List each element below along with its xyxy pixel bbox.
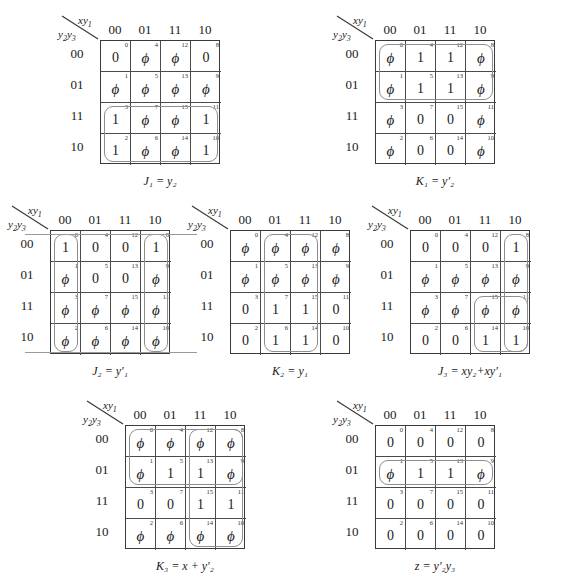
kmap-cell: 20 — [411, 324, 441, 355]
row-header-10-3: 10 — [89, 524, 115, 540]
cell-value: ϕ — [376, 142, 405, 160]
kmap-grid: 0040120801ϕ511319ϕ30701501102060140100 — [375, 425, 495, 549]
cell-value: 0 — [81, 270, 110, 288]
kmap-cell: 50 — [81, 262, 111, 293]
cell-value: 1 — [101, 111, 130, 129]
cell-index: 1 — [75, 262, 78, 270]
cell-value: 1 — [406, 49, 435, 67]
row-header-01-1: 01 — [89, 462, 115, 478]
column-header-11-2: 11 — [185, 407, 215, 423]
cell-index: 3 — [150, 488, 153, 496]
row-header-00-0: 00 — [14, 236, 40, 252]
kmap-grid: 0040120811ϕ5ϕ13ϕ9ϕ3ϕ7ϕ15ϕ11ϕ2060141101 — [410, 230, 530, 354]
kmap-cell: 9ϕ — [501, 262, 531, 293]
column-header-01-1: 01 — [405, 407, 435, 423]
cell-value: 0 — [406, 434, 435, 452]
cell-value: 1 — [191, 142, 221, 160]
cell-index: 5 — [285, 262, 288, 270]
cell-value: 0 — [466, 527, 496, 545]
kmap-cell: 151 — [186, 488, 216, 519]
kmap-cell: 110 — [321, 293, 351, 324]
cell-index: 0 — [435, 231, 438, 239]
cell-index: 15 — [132, 293, 139, 301]
row-header-11-2: 11 — [374, 298, 400, 314]
kmap-cell: 3ϕ — [376, 103, 406, 134]
kmap-cell: 01 — [51, 231, 81, 262]
row-header-01-1: 01 — [64, 77, 90, 93]
kmap-cell: 4ϕ — [156, 426, 186, 457]
cell-index: 14 — [492, 324, 499, 332]
cell-index: 9 — [491, 72, 494, 80]
row-header-00-0: 00 — [374, 236, 400, 252]
kmap-cell: 70 — [406, 488, 436, 519]
cell-index: 0 — [75, 231, 78, 239]
cell-index: 7 — [465, 293, 468, 301]
cell-value: ϕ — [376, 111, 405, 129]
kmap-cell: 150 — [436, 103, 466, 134]
kmap-caption-J1: J₁ = y₂ — [60, 174, 260, 189]
cell-value: ϕ — [101, 80, 130, 98]
top-variable-label: xy1 — [353, 14, 367, 29]
left-variable-label: y2y3 — [188, 218, 206, 233]
cell-index: 10 — [213, 134, 220, 142]
cell-value: 0 — [411, 239, 440, 257]
cell-index: 4 — [430, 41, 433, 49]
cell-value: 1 — [216, 496, 246, 514]
cell-value: ϕ — [126, 527, 155, 545]
kmap-cell: 140 — [436, 519, 466, 550]
cell-index: 7 — [155, 103, 158, 111]
cell-value: ϕ — [111, 301, 140, 319]
kmap-cell: 1ϕ — [231, 262, 261, 293]
kmap-cell: 40 — [441, 231, 471, 262]
kmap-K1: xy1y2y300011110000111100ϕ411218ϕ1ϕ511319… — [333, 14, 499, 198]
cell-value: ϕ — [441, 301, 470, 319]
kmap-cell: 8ϕ — [216, 426, 246, 457]
cell-index: 9 — [346, 262, 349, 270]
cell-index: 0 — [150, 426, 153, 434]
kmap-cell: 81 — [141, 231, 171, 262]
column-header-01-1: 01 — [130, 22, 160, 38]
cell-value: 0 — [436, 496, 465, 514]
kmap-cell: 80 — [466, 426, 496, 457]
kmap-cell: 13ϕ — [471, 262, 501, 293]
cell-index: 15 — [312, 293, 319, 301]
cell-index: 14 — [312, 324, 319, 332]
kmap-cell: 51 — [406, 72, 436, 103]
cell-index: 2 — [75, 324, 78, 332]
cell-index: 3 — [400, 488, 403, 496]
cell-value: 0 — [231, 332, 260, 350]
kmap-cell: 41 — [406, 41, 436, 72]
cell-index: 12 — [457, 41, 464, 49]
cell-value: ϕ — [501, 301, 531, 319]
column-header-01-1: 01 — [405, 22, 435, 38]
cell-index: 8 — [346, 231, 349, 239]
kmap-cell: 12ϕ — [291, 231, 321, 262]
cell-index: 11 — [213, 103, 219, 111]
wrapline-top — [25, 234, 197, 235]
cell-value: 1 — [186, 496, 215, 514]
kmap-cell: 51 — [156, 457, 186, 488]
cell-index: 15 — [182, 103, 189, 111]
kmap-cell: 20 — [376, 519, 406, 550]
cell-value: ϕ — [186, 527, 215, 545]
cell-index: 15 — [457, 103, 464, 111]
cell-value: ϕ — [141, 332, 171, 350]
cell-index: 6 — [285, 324, 288, 332]
cell-value: ϕ — [141, 301, 171, 319]
kmap-cell: 131 — [186, 457, 216, 488]
kmap-cell: 1ϕ — [376, 457, 406, 488]
cell-value: 1 — [501, 239, 531, 257]
kmap-cell: 4ϕ — [261, 231, 291, 262]
cell-index: 12 — [312, 231, 319, 239]
top-variable-label: xy1 — [103, 399, 117, 414]
cell-value: 0 — [436, 111, 465, 129]
cell-value: ϕ — [291, 270, 320, 288]
kmap-cell: 14ϕ — [111, 324, 141, 355]
cell-value: 1 — [501, 332, 531, 350]
cell-index: 2 — [125, 134, 128, 142]
cell-index: 4 — [465, 231, 468, 239]
cell-value: ϕ — [141, 270, 171, 288]
cell-index: 7 — [105, 293, 108, 301]
cell-index: 2 — [400, 134, 403, 142]
kmap-cell: 6ϕ — [131, 134, 161, 165]
